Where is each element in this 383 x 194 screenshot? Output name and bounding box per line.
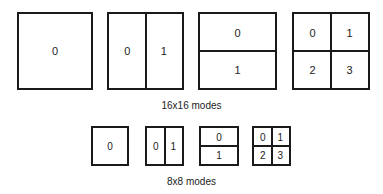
divider-horizontal — [254, 145, 289, 147]
partition-0: 0 — [200, 14, 275, 51]
partition-0: 0 — [254, 128, 272, 146]
mode-8x8-vertical-split: 0 1 — [145, 126, 184, 166]
mode-8x8-horizontal-split: 0 1 — [199, 126, 239, 166]
partition-2: 2 — [254, 146, 272, 164]
partition-0: 0 — [201, 128, 237, 146]
partition-1: 1 — [201, 146, 237, 164]
partition-3: 3 — [272, 146, 290, 164]
divider-horizontal — [294, 50, 368, 52]
partition-0: 0 — [19, 14, 91, 88]
partition-3: 3 — [331, 51, 368, 88]
mode-8x8-whole: 0 — [91, 126, 129, 166]
partition-1: 1 — [331, 14, 368, 51]
mode-16x16-quad-split: 0 1 2 3 — [292, 12, 370, 90]
caption-8x8: 8x8 modes — [0, 176, 383, 187]
partition-1: 1 — [272, 128, 290, 146]
mode-16x16-horizontal-split: 0 1 — [198, 12, 277, 90]
mode-16x16-vertical-split: 0 1 — [107, 12, 184, 90]
caption-16x16: 16x16 modes — [0, 100, 383, 111]
partition-0: 0 — [109, 14, 146, 88]
partition-1: 1 — [165, 128, 183, 164]
mode-16x16-whole: 0 — [17, 12, 93, 90]
partition-2: 2 — [294, 51, 331, 88]
partition-0: 0 — [147, 128, 165, 164]
mode-8x8-quad-split: 0 1 2 3 — [252, 126, 291, 166]
partition-0: 0 — [294, 14, 331, 51]
partition-1: 1 — [146, 14, 183, 88]
partition-1: 1 — [200, 51, 275, 88]
partition-0: 0 — [93, 128, 127, 164]
